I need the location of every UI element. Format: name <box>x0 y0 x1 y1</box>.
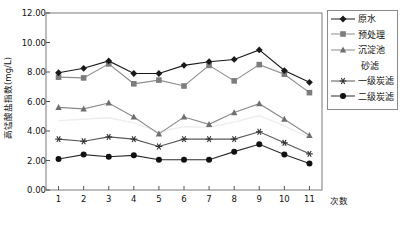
chart-legend: 原水预处理沉淀池砂滤一级炭滤二级炭滤 <box>327 10 398 110</box>
legend-marker-square-icon <box>331 28 355 40</box>
x-axis-title: 次数 <box>330 194 348 206</box>
x-axis-tick-label: 8 <box>231 194 236 204</box>
legend-item-label: 二级炭滤 <box>355 90 394 103</box>
legend-item-label: 一级炭滤 <box>355 74 394 87</box>
legend-marker-circle-icon <box>331 90 355 102</box>
legend-item-label: 预处理 <box>355 28 385 41</box>
chart-figure: 高锰酸盐指数(mg/L) 12.0010.008.006.004.002.000… <box>0 0 400 229</box>
legend-item-label: 原水 <box>355 12 376 25</box>
x-axis-tick-label: 3 <box>106 194 111 204</box>
legend-item-label: 沉淀池 <box>355 43 385 56</box>
data-point-asterisk <box>340 78 347 84</box>
legend-item-5: 一级炭滤 <box>328 73 397 89</box>
legend-item-1: 原水 <box>328 11 397 27</box>
x-axis-tick-label: 5 <box>156 194 161 204</box>
x-axis-tick-label: 1 <box>56 194 61 204</box>
x-axis-tick-label: 11 <box>304 194 315 204</box>
legend-marker-diamond-icon <box>331 13 355 25</box>
data-point-circle <box>340 93 346 99</box>
data-point-square <box>340 31 346 37</box>
legend-item-4: 砂滤 <box>328 58 397 74</box>
x-axis-tick-label: 7 <box>206 194 211 204</box>
data-point-diamond <box>340 15 347 22</box>
legend-item-3: 沉淀池 <box>328 42 397 58</box>
x-axis-tick-label: 10 <box>279 194 290 204</box>
x-axis-tick-label: 9 <box>257 194 262 204</box>
legend-item-label: 砂滤 <box>358 59 379 72</box>
x-axis-tick-label: 2 <box>81 194 86 204</box>
legend-marker-asterisk-icon <box>331 75 355 87</box>
legend-item-6: 二级炭滤 <box>328 89 397 105</box>
x-axis-tick-label: 4 <box>131 194 136 204</box>
legend-marker-triangle-icon <box>331 44 355 56</box>
data-point-triangle <box>340 46 346 52</box>
x-axis-tick-label: 6 <box>181 194 186 204</box>
legend-item-2: 预处理 <box>328 27 397 43</box>
